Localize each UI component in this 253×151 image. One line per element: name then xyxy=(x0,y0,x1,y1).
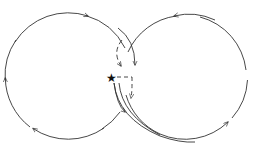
transfer-paths xyxy=(114,28,195,142)
star-marker: ★ xyxy=(106,71,117,85)
right-circle xyxy=(126,14,248,139)
orbit-diagram: ★ xyxy=(0,0,253,151)
